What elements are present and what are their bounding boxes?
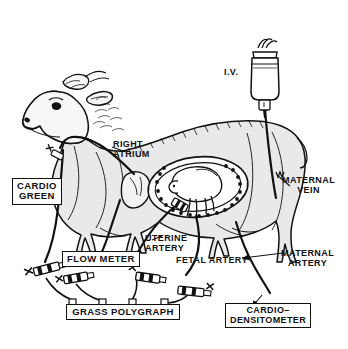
iv-hanger <box>258 39 277 48</box>
label-cardio-green[interactable]: CARDIO GREEN <box>12 178 62 205</box>
iv-bottle <box>251 39 279 118</box>
ear <box>87 92 113 106</box>
label-iv: I.V. <box>224 68 238 78</box>
label-maternal-artery: MATERNAL ARTERY <box>281 249 334 268</box>
drip-chamber <box>259 100 270 110</box>
fetus-body <box>172 167 222 202</box>
label-maternal-vein: MATERNAL VEIN <box>282 176 335 195</box>
label-grass-polygraph[interactable]: GRASS POLYGRAPH <box>66 304 180 320</box>
label-flow-meter[interactable]: FLOW METER <box>62 251 140 267</box>
sheep-instrumentation-diagram: I.V. CARDIO GREEN FLOW METER GRASS POLYG… <box>0 0 348 349</box>
fetus-eye <box>173 185 175 187</box>
label-uterine-artery: UTERINE ARTERY <box>145 234 187 253</box>
label-cardio-densitometer[interactable]: CARDIO– DENSITOMETER <box>225 303 311 328</box>
label-fetal-artery: FETAL ARTERY <box>176 256 248 266</box>
label-right-atrium: RIGHT ATRIUM <box>113 140 150 159</box>
